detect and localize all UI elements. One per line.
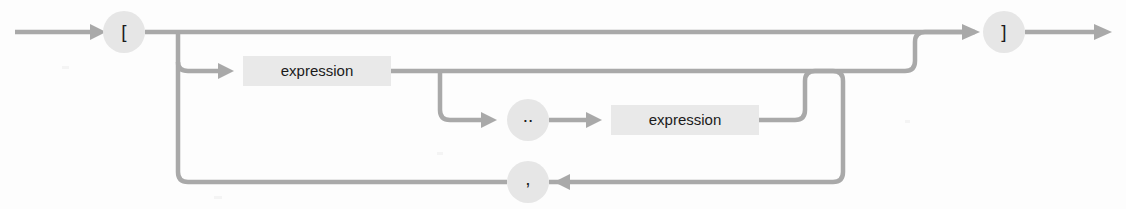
expression-1-output-rail <box>391 32 962 71</box>
expression-1-label: expression <box>281 62 354 79</box>
range-to-expression-2-rail <box>549 112 602 128</box>
open-bracket-label: [ <box>121 21 127 42</box>
comma-loopback-arrow <box>554 174 570 190</box>
exit-arrow <box>1025 24 1112 40</box>
railroad-diagram-canvas: [ expression .. expression , ] <box>0 0 1126 209</box>
node-range-operator[interactable]: .. <box>507 99 549 141</box>
entry-arrow <box>15 24 106 40</box>
open-bracket-to-expression-rail <box>178 32 507 182</box>
expression-2-label: expression <box>649 111 722 128</box>
bypass-main-rail <box>145 24 980 40</box>
node-comma-separator[interactable]: , <box>507 161 549 203</box>
close-bracket-label: ] <box>1001 21 1006 42</box>
node-close-bracket[interactable]: ] <box>983 11 1025 53</box>
range-operator-label: .. <box>523 105 534 126</box>
comma-separator-label: , <box>525 168 530 189</box>
range-branch-rail <box>440 71 497 128</box>
node-expression-1[interactable]: expression <box>243 56 391 86</box>
node-expression-2[interactable]: expression <box>611 105 759 135</box>
railroad-diagram: [ expression .. expression , ] <box>0 0 1126 209</box>
node-open-bracket[interactable]: [ <box>103 11 145 53</box>
